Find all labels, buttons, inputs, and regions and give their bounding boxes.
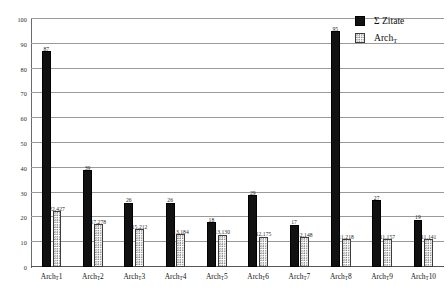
- x-axis-label-6: ArchT6: [247, 272, 269, 281]
- bar-value-label: 18: [209, 217, 215, 223]
- bar-zitate: 87: [42, 51, 51, 267]
- bar-arch: 22,427: [53, 211, 62, 267]
- x-axis-label-9: ArchT9: [371, 272, 393, 281]
- bar-value-label: 26: [167, 197, 173, 203]
- bar-value-label: 39: [85, 165, 91, 171]
- y-tick-label-40: 40: [21, 164, 31, 171]
- bar-group: 9511,218: [320, 19, 361, 267]
- legend-label: ArchT: [374, 32, 397, 43]
- bars-layer: 8722,4273917,2782615,2122613,1841813,130…: [31, 19, 444, 267]
- legend-item-zitate[interactable]: Σ Zitate: [355, 12, 447, 29]
- bar-arch: 13,184: [176, 234, 185, 267]
- bar-zitate: 26: [124, 203, 133, 267]
- bar-zitate: 26: [166, 203, 175, 267]
- bar-value-label: 11,141: [421, 234, 436, 240]
- bar-arch: 11,218: [342, 239, 351, 267]
- bar-group: 2711,157: [361, 19, 402, 267]
- plot-area: 0102030405060708090100 8722,4273917,2782…: [31, 19, 444, 267]
- bar-value-label: 12,148: [297, 232, 313, 238]
- bar-value-label: 95: [333, 26, 339, 32]
- x-axis-label-2: ArchT2: [82, 272, 104, 281]
- x-axis-label-8: ArchT8: [330, 272, 352, 281]
- bar-arch: 11,157: [383, 239, 392, 267]
- y-tick-label-80: 80: [21, 65, 31, 72]
- bar-value-label: 17: [291, 219, 297, 225]
- y-tick-label-50: 50: [21, 140, 31, 147]
- bar-group: 1911,141: [403, 19, 444, 267]
- x-axis-label-10: ArchT10: [411, 272, 436, 281]
- bar-value-label: 26: [126, 197, 132, 203]
- bar-arch: 17,278: [94, 224, 103, 267]
- x-axis-label-5: ArchT5: [206, 272, 228, 281]
- y-tick-label-10: 10: [21, 239, 31, 246]
- legend-label: Σ Zitate: [374, 15, 404, 26]
- legend-item-arch[interactable]: ArchT: [355, 29, 447, 46]
- bar-value-label: 87: [43, 46, 49, 52]
- bar-group: 2613,184: [155, 19, 196, 267]
- y-tick-label-30: 30: [21, 189, 31, 196]
- x-axis-labels: ArchT1ArchT2ArchT3ArchT4ArchT5ArchT6Arch…: [31, 272, 444, 292]
- bar-arch: 12,175: [259, 237, 268, 267]
- bar-value-label: 27: [374, 195, 380, 201]
- bar-value-label: 29: [250, 190, 256, 196]
- bar-arch: 15,212: [135, 229, 144, 267]
- bar-value-label: 17,278: [90, 219, 106, 225]
- bar-zitate: 19: [414, 220, 423, 267]
- y-tick-label-20: 20: [21, 214, 31, 221]
- x-axis-label-3: ArchT3: [123, 272, 145, 281]
- y-tick-label-100: 100: [17, 16, 31, 23]
- bar-arch: 13,130: [218, 235, 227, 267]
- y-tick-label-90: 90: [21, 40, 31, 47]
- bar-chart: 0102030405060708090100 8722,4273917,2782…: [0, 0, 448, 293]
- bar-value-label: 11,157: [380, 234, 395, 240]
- bar-value-label: 11,218: [338, 234, 353, 240]
- y-tick-label-70: 70: [21, 90, 31, 97]
- bar-arch: 11,141: [424, 239, 433, 267]
- bar-value-label: 15,212: [132, 224, 148, 230]
- bar-arch: 12,148: [300, 237, 309, 267]
- bar-value-label: 22,427: [49, 206, 65, 212]
- chart-legend: Σ ZitateArchT: [355, 12, 447, 46]
- bar-value-label: 19: [415, 214, 421, 220]
- bar-value-label: 13,130: [214, 229, 230, 235]
- bar-value-label: 13,184: [173, 229, 189, 235]
- x-axis-label-4: ArchT4: [165, 272, 187, 281]
- bar-value-label: 12,175: [256, 231, 272, 237]
- legend-swatch-icon: [355, 33, 365, 43]
- y-tick-label-60: 60: [21, 115, 31, 122]
- x-axis-label-7: ArchT7: [289, 272, 311, 281]
- bar-group: 1813,130: [196, 19, 237, 267]
- bar-group: 1712,148: [279, 19, 320, 267]
- bar-group: 2615,212: [114, 19, 155, 267]
- x-axis-label-1: ArchT1: [41, 272, 63, 281]
- bar-group: 8722,427: [31, 19, 72, 267]
- legend-swatch-icon: [355, 16, 365, 26]
- bar-group: 2912,175: [238, 19, 279, 267]
- bar-group: 3917,278: [72, 19, 113, 267]
- y-tick-label-0: 0: [24, 264, 31, 271]
- bar-zitate: 95: [331, 31, 340, 267]
